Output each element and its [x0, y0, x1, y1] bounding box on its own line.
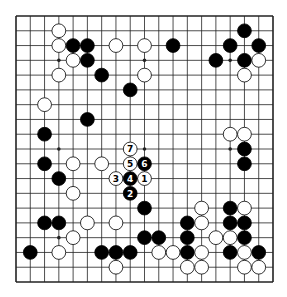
- white-stone[interactable]: [209, 231, 223, 245]
- black-stone[interactable]: [95, 246, 109, 260]
- black-stone[interactable]: [80, 53, 94, 67]
- star-point: [143, 59, 147, 63]
- star-point: [228, 147, 232, 151]
- move-number-label: 6: [141, 159, 147, 169]
- white-stone[interactable]: [52, 246, 66, 260]
- black-stone[interactable]: [152, 231, 166, 245]
- white-stone[interactable]: [138, 68, 152, 82]
- star-point: [57, 147, 61, 151]
- black-stone[interactable]: [252, 246, 266, 260]
- move-number-label: 1: [141, 174, 147, 184]
- white-stone[interactable]: [109, 260, 123, 274]
- black-stone[interactable]: [238, 216, 252, 230]
- star-point: [57, 59, 61, 63]
- white-stone[interactable]: [52, 39, 66, 53]
- white-stone[interactable]: [66, 157, 80, 171]
- white-stone[interactable]: [138, 39, 152, 53]
- white-stone[interactable]: [238, 201, 252, 215]
- numbered-move-4[interactable]: 4: [123, 172, 137, 186]
- black-stone[interactable]: [223, 201, 237, 215]
- numbered-move-7[interactable]: 7: [123, 142, 137, 156]
- numbered-move-6[interactable]: 6: [138, 157, 152, 171]
- black-stone[interactable]: [238, 142, 252, 156]
- black-stone[interactable]: [180, 246, 194, 260]
- white-stone[interactable]: [80, 216, 94, 230]
- numbered-move-3[interactable]: 3: [109, 172, 123, 186]
- black-stone[interactable]: [238, 157, 252, 171]
- white-stone[interactable]: [180, 260, 194, 274]
- white-stone[interactable]: [52, 68, 66, 82]
- black-stone[interactable]: [238, 53, 252, 67]
- white-stone[interactable]: [195, 216, 209, 230]
- white-stone[interactable]: [238, 127, 252, 141]
- white-stone[interactable]: [195, 246, 209, 260]
- white-stone[interactable]: [52, 24, 66, 38]
- numbered-move-1[interactable]: 1: [138, 172, 152, 186]
- white-stone[interactable]: [238, 246, 252, 260]
- black-stone[interactable]: [123, 246, 137, 260]
- white-stone[interactable]: [238, 260, 252, 274]
- white-stone[interactable]: [252, 260, 266, 274]
- black-stone[interactable]: [180, 231, 194, 245]
- white-stone[interactable]: [95, 157, 109, 171]
- white-stone[interactable]: [166, 246, 180, 260]
- black-stone[interactable]: [52, 216, 66, 230]
- white-stone[interactable]: [109, 216, 123, 230]
- white-stone[interactable]: [66, 231, 80, 245]
- black-stone[interactable]: [223, 246, 237, 260]
- white-stone[interactable]: [66, 53, 80, 67]
- numbered-move-2[interactable]: 2: [123, 186, 137, 200]
- move-number-label: 3: [113, 174, 119, 184]
- black-stone[interactable]: [109, 246, 123, 260]
- black-stone[interactable]: [223, 39, 237, 53]
- go-board: 1234567: [0, 0, 287, 297]
- move-number-label: 5: [127, 159, 133, 169]
- white-stone[interactable]: [223, 127, 237, 141]
- black-stone[interactable]: [38, 127, 52, 141]
- black-stone[interactable]: [238, 231, 252, 245]
- black-stone[interactable]: [209, 53, 223, 67]
- white-stone[interactable]: [195, 201, 209, 215]
- move-number-label: 2: [127, 189, 133, 199]
- black-stone[interactable]: [23, 246, 37, 260]
- black-stone[interactable]: [80, 39, 94, 53]
- black-stone[interactable]: [38, 157, 52, 171]
- star-point: [57, 236, 61, 240]
- star-point: [228, 59, 232, 63]
- white-stone[interactable]: [109, 39, 123, 53]
- black-stone[interactable]: [166, 39, 180, 53]
- numbered-move-5[interactable]: 5: [123, 157, 137, 171]
- black-stone[interactable]: [95, 68, 109, 82]
- star-point: [143, 147, 147, 151]
- black-stone[interactable]: [252, 39, 266, 53]
- black-stone[interactable]: [238, 24, 252, 38]
- white-stone[interactable]: [238, 68, 252, 82]
- white-stone[interactable]: [223, 231, 237, 245]
- black-stone[interactable]: [223, 216, 237, 230]
- white-stone[interactable]: [195, 260, 209, 274]
- black-stone[interactable]: [138, 231, 152, 245]
- white-stone[interactable]: [252, 53, 266, 67]
- white-stone[interactable]: [152, 246, 166, 260]
- black-stone[interactable]: [123, 83, 137, 97]
- black-stone[interactable]: [66, 39, 80, 53]
- black-stone[interactable]: [180, 216, 194, 230]
- black-stone[interactable]: [80, 113, 94, 127]
- white-stone[interactable]: [66, 186, 80, 200]
- black-stone[interactable]: [138, 201, 152, 215]
- move-number-label: 4: [127, 174, 133, 184]
- move-number-label: 7: [127, 144, 133, 154]
- white-stone[interactable]: [38, 98, 52, 112]
- black-stone[interactable]: [52, 172, 66, 186]
- black-stone[interactable]: [38, 216, 52, 230]
